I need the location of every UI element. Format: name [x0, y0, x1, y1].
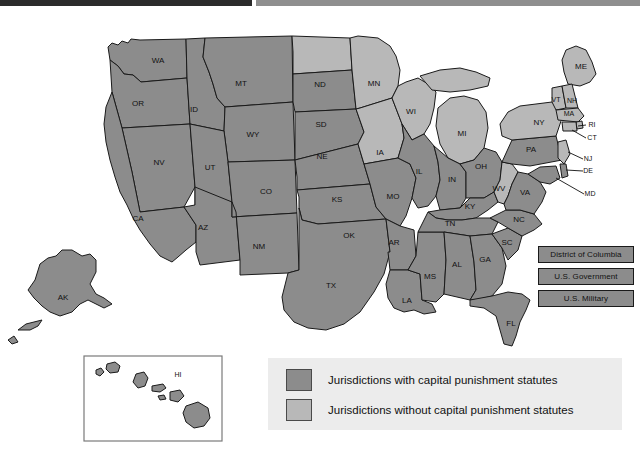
state-SD[interactable]: [293, 70, 356, 112]
map-legend: Jurisdictions with capital punishment st…: [268, 358, 622, 430]
state-label-VT: VT: [552, 96, 562, 103]
state-label-NV: NV: [153, 158, 165, 167]
state-label-SC: SC: [501, 238, 512, 247]
chip-district-of-columbia[interactable]: District of Columbia: [538, 246, 634, 263]
state-label-MD: MD: [585, 190, 596, 197]
state-label-ME: ME: [575, 62, 587, 71]
state-WY[interactable]: [224, 102, 295, 162]
state-label-AK: AK: [58, 293, 69, 302]
hawaii-inset-box: [84, 356, 222, 441]
state-label-WA: WA: [152, 56, 165, 65]
state-HI[interactable]: [96, 362, 210, 428]
state-ND[interactable]: [292, 36, 352, 74]
map-figure: WAORIDMTWYNVUTCAAZCONMNDSDNEKSOKTXMNIAMO…: [0, 0, 640, 452]
legend-label-without: Jurisdictions without capital punishment…: [328, 404, 573, 416]
state-label-NM: NM: [253, 242, 266, 251]
state-label-NJ: NJ: [584, 155, 593, 162]
state-label-PA: PA: [526, 145, 537, 154]
state-label-KS: KS: [332, 195, 343, 204]
state-label-VA: VA: [520, 188, 531, 197]
state-label-FL: FL: [506, 319, 516, 328]
state-CT[interactable]: [562, 122, 577, 131]
state-label-OR: OR: [132, 99, 144, 108]
state-label-IN: IN: [448, 175, 456, 184]
state-label-CA: CA: [132, 214, 144, 223]
state-label-MA: MA: [564, 110, 575, 117]
state-label-AR: AR: [388, 238, 399, 247]
state-label-MS: MS: [424, 272, 436, 281]
state-label-NH: NH: [567, 97, 577, 104]
state-label-NC: NC: [513, 215, 525, 224]
state-label-DE: DE: [583, 167, 593, 174]
state-label-GA: GA: [479, 255, 491, 264]
legend-item-with: Jurisdictions with capital punishment st…: [286, 365, 622, 395]
state-label-OK: OK: [343, 231, 355, 240]
state-DE[interactable]: [560, 164, 568, 178]
chip-us-government[interactable]: U.S. Government: [538, 268, 634, 285]
state-MT[interactable]: [203, 36, 293, 107]
state-label-MN: MN: [368, 79, 381, 88]
state-label-ND: ND: [314, 80, 326, 89]
state-NY[interactable]: [500, 102, 562, 140]
jurisdiction-chip-list: District of Columbia U.S. Government U.S…: [538, 246, 634, 312]
state-label-NE: NE: [316, 152, 327, 161]
state-label-CT: CT: [587, 134, 597, 141]
state-label-MT: MT: [235, 79, 247, 88]
state-label-MO: MO: [387, 192, 400, 201]
state-label-NY: NY: [533, 118, 545, 127]
state-label-IA: IA: [376, 148, 384, 157]
state-label-WY: WY: [247, 130, 261, 139]
legend-item-without: Jurisdictions without capital punishment…: [286, 395, 622, 425]
legend-swatch-without: [286, 399, 312, 421]
state-label-ID: ID: [190, 105, 198, 114]
state-label-TX: TX: [326, 281, 337, 290]
state-label-AZ: AZ: [198, 223, 208, 232]
state-label-AL: AL: [452, 260, 462, 269]
chip-us-military[interactable]: U.S. Military: [538, 290, 634, 307]
state-label-CO: CO: [260, 187, 272, 196]
state-FL[interactable]: [470, 292, 530, 346]
state-label-TN: TN: [445, 219, 456, 228]
header-bar-dark: [0, 0, 252, 6]
state-label-WI: WI: [406, 107, 416, 116]
state-label-IL: IL: [416, 167, 423, 176]
state-label-MI: MI: [458, 129, 467, 138]
header-bar-light: [256, 0, 640, 6]
legend-label-with: Jurisdictions with capital punishment st…: [328, 374, 557, 386]
state-label-WV: WV: [493, 184, 507, 193]
state-label-HI: HI: [175, 371, 182, 378]
state-label-SD: SD: [315, 120, 326, 129]
state-AK-aleutians[interactable]: [8, 320, 42, 344]
legend-swatch-with: [286, 369, 312, 391]
state-label-KY: KY: [465, 202, 476, 211]
state-label-RI: RI: [589, 121, 596, 128]
state-label-OH: OH: [475, 162, 487, 171]
state-AK[interactable]: [28, 250, 112, 316]
state-MI-upper[interactable]: [420, 68, 490, 92]
state-label-UT: UT: [205, 163, 216, 172]
state-label-LA: LA: [402, 296, 412, 305]
